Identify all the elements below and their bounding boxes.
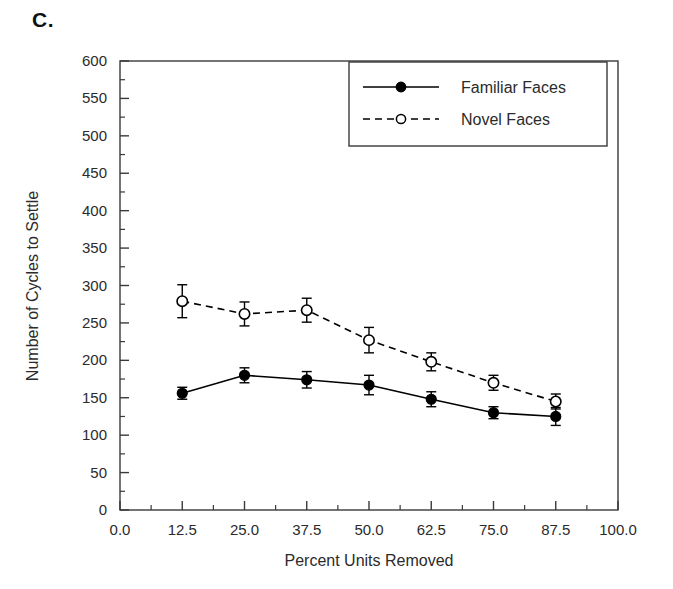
data-series-layer: [177, 285, 561, 426]
data-point-open-circle: [364, 335, 374, 345]
x-axis-ticks: [120, 501, 618, 510]
y-axis-tick-labels: 050100150200250300350400450500550600: [82, 52, 107, 518]
data-point-filled-circle: [177, 388, 187, 398]
data-point-filled-circle: [551, 411, 561, 421]
x-tick-label: 50.0: [354, 521, 383, 538]
x-tick-label: 100.0: [599, 521, 637, 538]
data-point-filled-circle: [302, 375, 312, 385]
y-tick-label: 400: [82, 202, 107, 219]
y-tick-label: 0: [99, 501, 107, 518]
y-tick-label: 200: [82, 351, 107, 368]
x-tick-label: 37.5: [292, 521, 321, 538]
data-point-filled-circle: [426, 394, 436, 404]
figure-panel-c: C. 0.012.525.037.550.062.575.087.5100.0 …: [0, 0, 673, 589]
legend-marker-filled-circle: [396, 82, 406, 92]
data-point-open-circle: [488, 378, 498, 388]
y-tick-label: 500: [82, 127, 107, 144]
y-tick-label: 50: [90, 464, 107, 481]
y-tick-label: 350: [82, 239, 107, 256]
legend-marker-open-circle: [396, 114, 405, 123]
x-tick-label: 0.0: [110, 521, 131, 538]
data-point-open-circle: [551, 396, 561, 406]
y-tick-label: 450: [82, 164, 107, 181]
chart-canvas: 0.012.525.037.550.062.575.087.5100.0 050…: [0, 0, 673, 589]
data-point-open-circle: [239, 309, 249, 319]
x-tick-label: 75.0: [479, 521, 508, 538]
x-tick-label: 12.5: [168, 521, 197, 538]
x-axis-tick-labels: 0.012.525.037.550.062.575.087.5100.0: [110, 521, 637, 538]
y-tick-label: 100: [82, 426, 107, 443]
y-axis-title: Number of Cycles to Settle: [24, 191, 41, 381]
data-point-open-circle: [302, 305, 312, 315]
chart-legend: Familiar FacesNovel Faces: [349, 62, 607, 146]
data-point-open-circle: [177, 296, 187, 306]
x-axis-title: Percent Units Removed: [285, 552, 454, 569]
legend-label: Familiar Faces: [461, 79, 566, 96]
y-tick-label: 250: [82, 314, 107, 331]
y-axis-ticks: [120, 61, 129, 510]
x-tick-label: 25.0: [230, 521, 259, 538]
y-tick-label: 150: [82, 389, 107, 406]
series-familiar-faces: [177, 368, 561, 426]
legend-label: Novel Faces: [461, 111, 550, 128]
y-tick-label: 550: [82, 89, 107, 106]
y-tick-label: 600: [82, 52, 107, 69]
x-tick-label: 87.5: [541, 521, 570, 538]
data-point-filled-circle: [240, 370, 250, 380]
data-point-filled-circle: [364, 380, 374, 390]
x-tick-label: 62.5: [417, 521, 446, 538]
data-point-filled-circle: [489, 408, 499, 418]
data-point-open-circle: [426, 357, 436, 367]
y-tick-label: 300: [82, 277, 107, 294]
